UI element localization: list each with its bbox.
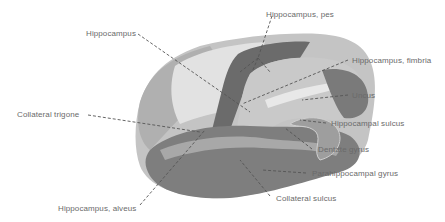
diagram-stage: Hippocampus Hippocampus, pes Hippocampus… bbox=[0, 0, 445, 222]
label-collateral-trigone: Collateral trigone bbox=[17, 110, 79, 120]
label-hippocampus-pes: Hippocampus, pes bbox=[266, 10, 334, 20]
label-hippocampus-alveus: Hippocampus, alveus bbox=[58, 204, 136, 214]
label-uncus: Uncus bbox=[352, 91, 375, 101]
label-parahippocampal-gyrus: Parahippocampal gyrus bbox=[312, 169, 398, 179]
label-hippocampal-sulcus: Hippocampal sulcus bbox=[331, 119, 404, 129]
label-dentate-gyrus: Dentate gyrus bbox=[318, 145, 369, 155]
label-hippocampus-fimbria: Hippocampus, fimbria bbox=[352, 56, 431, 66]
label-hippocampus: Hippocampus bbox=[86, 29, 136, 39]
label-collateral-sulcus: Collateral sulcus bbox=[276, 194, 336, 204]
